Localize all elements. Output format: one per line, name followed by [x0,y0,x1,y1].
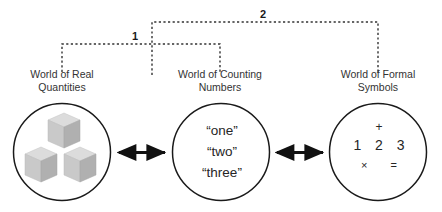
formal-symbols-group: + 1 2 3 × = [334,119,424,175]
formal-symbol-row-operators: × = [334,155,424,175]
cube-2 [25,147,57,182]
counting-words-group: “one” “two” “three” [177,120,267,183]
counting-word-two: “two” [177,141,267,162]
cubes-svg [22,110,102,186]
diagram-canvas: 1 2 World of Real Quantities World of Co… [0,0,442,212]
formal-symbol-row-plus: + [334,119,424,135]
cube-3 [64,147,96,182]
counting-word-three: “three” [177,162,267,183]
cubes-group [22,110,102,186]
cube-1 [48,113,80,148]
formal-symbol-row-digits: 1 2 3 [334,135,424,155]
counting-word-one: “one” [177,120,267,141]
